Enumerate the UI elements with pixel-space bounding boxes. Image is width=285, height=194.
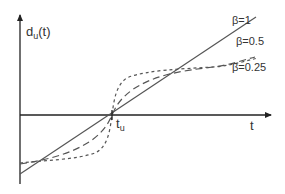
y-axis-label: du(t) [26, 25, 51, 38]
x-axis-label: t [250, 119, 254, 132]
curve-beta-0.25 [20, 58, 258, 163]
legend-beta-0.5: β=0.5 [236, 36, 264, 47]
crossing-label: tu [116, 117, 125, 130]
crossing-label-subscript: u [120, 123, 125, 133]
legend-beta-1: β=1 [232, 15, 251, 26]
curve-beta-0.5 [20, 57, 255, 164]
curve-beta-1 [20, 17, 256, 174]
legend-beta-0.25: β=0.25 [232, 62, 266, 73]
y-axis-label-suffix: (t) [38, 24, 50, 39]
y-axis-label-subscript: u [33, 31, 38, 41]
